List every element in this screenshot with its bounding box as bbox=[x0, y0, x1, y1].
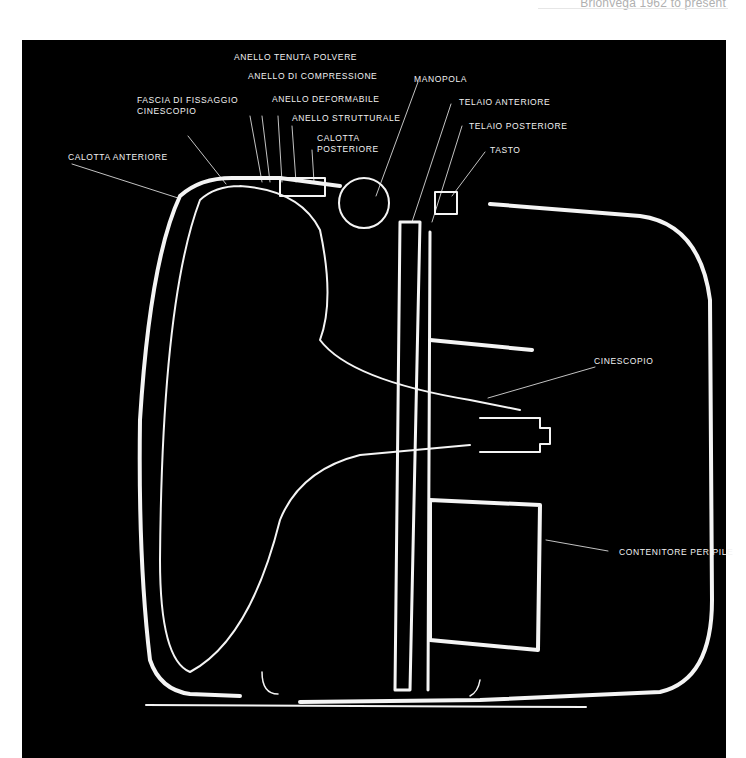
crt-neck bbox=[480, 418, 550, 452]
front-frame bbox=[395, 222, 420, 690]
label-calotta: CALOTTA bbox=[317, 133, 360, 143]
knob-manopola bbox=[339, 178, 389, 228]
label-anello-tenuta-polvere: ANELLO TENUTA POLVERE bbox=[234, 52, 357, 62]
label-contenitore-per-pile: CONTENITORE PER PILE bbox=[619, 547, 733, 557]
label-manopola: MANOPOLA bbox=[414, 74, 467, 84]
label-anello-di-compressione: ANELLO DI COMPRESSIONE bbox=[248, 71, 377, 81]
label-posteriore: POSTERIORE bbox=[317, 144, 379, 154]
battery-container bbox=[430, 500, 540, 650]
base-line bbox=[146, 705, 586, 707]
stand-foot bbox=[262, 672, 480, 696]
label-cinescopio: CINESCOPIO bbox=[594, 356, 653, 366]
top-shell-outline bbox=[280, 178, 712, 702]
upper-compartment bbox=[430, 340, 532, 350]
label-anello-strutturale: ANELLO STRUTTURALE bbox=[292, 113, 401, 123]
label-telaio-anteriore: TELAIO ANTERIORE bbox=[459, 97, 550, 107]
label-fascia-cinescopio: CINESCOPIO bbox=[137, 106, 196, 116]
front-shell-outline bbox=[140, 178, 280, 696]
label-telaio-posteriore: TELAIO POSTERIORE bbox=[469, 121, 568, 131]
crt-screen-curve bbox=[160, 186, 520, 672]
label-calotta-anteriore: CALOTTA ANTERIORE bbox=[68, 152, 168, 162]
label-tasto: TASTO bbox=[490, 145, 521, 155]
label-fascia-di-fissaggio: FASCIA DI FISSAGGIO bbox=[137, 95, 238, 105]
label-anello-deformabile: ANELLO DEFORMABILE bbox=[272, 94, 380, 104]
